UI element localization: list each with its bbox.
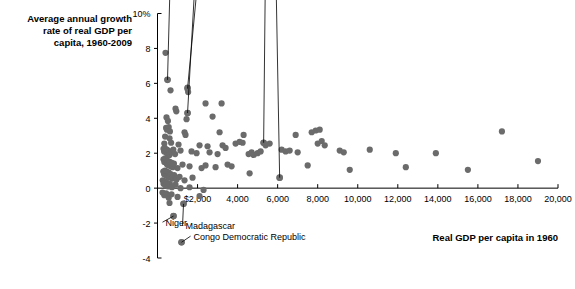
data-point (403, 164, 409, 170)
data-point (186, 184, 192, 190)
data-point (173, 108, 179, 114)
annotation-leader-line (182, 236, 191, 242)
x-axis-tick-label: 16,000 (464, 194, 492, 204)
data-point (212, 164, 218, 170)
data-point (165, 118, 171, 124)
data-point (367, 147, 373, 153)
data-point (295, 149, 301, 155)
x-axis-tick-label: 6,000 (266, 194, 289, 204)
data-point (465, 167, 471, 173)
data-point (228, 163, 234, 169)
chart-title-line: rate of real GDP per (43, 25, 132, 36)
data-point (218, 100, 224, 106)
x-axis-tick-label: 4,000 (226, 194, 249, 204)
y-axis-tick-label: 0 (145, 184, 150, 194)
data-point (214, 151, 220, 157)
data-point (200, 187, 206, 193)
data-point (222, 145, 228, 151)
data-point (305, 162, 311, 168)
data-point (258, 148, 264, 154)
data-point (176, 174, 182, 180)
annotation-leader-line (188, 0, 219, 89)
data-point (209, 113, 215, 119)
x-axis-tick-label: 12,000 (384, 194, 412, 204)
data-point (535, 158, 541, 164)
y-axis-tick-label: 2 (145, 149, 150, 159)
y-axis-tick-label: -2 (142, 219, 150, 229)
data-point (267, 141, 273, 147)
y-axis-tick-label: 8 (145, 44, 150, 54)
data-point (179, 161, 185, 167)
annotation-label: Madagascar (186, 221, 236, 231)
annotation-leader-line (168, 0, 174, 80)
data-point (287, 147, 293, 153)
data-point (162, 50, 168, 56)
annotation-leader-line (188, 0, 215, 113)
chart-title-line: capita, 1960-2009 (54, 37, 132, 48)
data-point (172, 182, 178, 188)
data-point (247, 170, 253, 176)
data-point (322, 142, 328, 148)
y-axis-tick-label: 6 (145, 79, 150, 89)
chart-canvas: Average annual growthrate of real GDP pe… (0, 0, 575, 289)
data-point (196, 142, 202, 148)
y-axis-tick-label: 10% (132, 9, 150, 19)
data-point (168, 140, 174, 146)
data-point (167, 87, 173, 93)
x-axis-tick-label: 18,000 (504, 194, 532, 204)
annotation-label: Niger (166, 218, 188, 228)
data-point (182, 132, 188, 138)
data-point (177, 147, 183, 153)
data-point (166, 200, 172, 206)
data-point (499, 128, 505, 134)
data-point (317, 127, 323, 133)
data-point (393, 150, 399, 156)
data-point (174, 194, 180, 200)
data-point (167, 128, 173, 134)
data-point (175, 141, 181, 147)
data-point (193, 150, 199, 156)
data-point (216, 129, 222, 135)
x-axis-tick-label: 10,000 (344, 194, 372, 204)
data-point (168, 191, 174, 197)
data-point (204, 143, 210, 149)
x-axis-title: Real GDP per capita in 1960 (433, 232, 559, 243)
x-axis-tick-label: 20,000 (544, 194, 572, 204)
chart-title-line: Average annual growth (27, 13, 132, 24)
data-point (172, 151, 178, 157)
x-axis-tick-label: 8,000 (306, 194, 329, 204)
data-point (241, 132, 247, 138)
y-axis-tick-label: -4 (142, 254, 150, 264)
data-point (174, 165, 180, 171)
data-point (293, 132, 299, 138)
data-point (177, 185, 183, 191)
data-point (433, 150, 439, 156)
data-point (181, 177, 187, 183)
data-point (183, 116, 189, 122)
data-point (347, 167, 353, 173)
data-point (189, 175, 195, 181)
y-axis-tick-label: 4 (145, 114, 150, 124)
data-point (202, 162, 208, 168)
data-point (196, 193, 202, 199)
data-point (186, 163, 192, 169)
data-point (240, 140, 246, 146)
annotation-leader-line (264, 0, 271, 143)
data-point (202, 100, 208, 106)
scatter-plot-figure: Average annual growthrate of real GDP pe… (0, 0, 575, 289)
annotation-label: Congo Democratic Republic (194, 232, 307, 242)
data-point (206, 149, 212, 155)
data-point (341, 149, 347, 155)
x-axis-tick-label: 14,000 (424, 194, 452, 204)
